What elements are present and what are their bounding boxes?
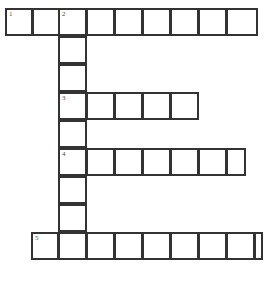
cell-r0c1[interactable] — [32, 8, 60, 36]
cell-r8c3[interactable] — [86, 232, 115, 260]
cell-r3c4[interactable] — [114, 92, 143, 120]
cell-r3c6[interactable] — [170, 92, 199, 120]
cell-r5c3[interactable] — [86, 148, 115, 176]
cell-r5c7[interactable] — [198, 148, 227, 176]
cell-r5c8[interactable] — [226, 148, 246, 176]
cell-r5c4[interactable] — [114, 148, 143, 176]
clue-number: 3 — [62, 94, 66, 102]
cell-r1c2[interactable] — [58, 36, 87, 64]
cell-r3c5[interactable] — [142, 92, 171, 120]
cell-r0c7[interactable] — [198, 8, 227, 36]
cell-r8c8[interactable] — [226, 232, 255, 260]
clue-number: 4 — [62, 150, 66, 158]
cell-r8c9[interactable] — [254, 232, 263, 260]
clue-number: 5 — [35, 234, 39, 242]
cell-r4c2[interactable] — [58, 120, 87, 148]
cell-r0c4[interactable] — [114, 8, 143, 36]
cell-r0c3[interactable] — [86, 8, 115, 36]
cell-r7c2[interactable] — [58, 204, 87, 232]
cell-r8c7[interactable] — [198, 232, 227, 260]
cell-r5c5[interactable] — [142, 148, 171, 176]
cell-r5c6[interactable] — [170, 148, 199, 176]
cell-r0c6[interactable] — [170, 8, 199, 36]
cell-r0c2[interactable]: 2 — [58, 8, 87, 36]
cell-r5c2[interactable]: 4 — [58, 148, 87, 176]
cell-r3c2[interactable]: 3 — [58, 92, 87, 120]
cell-r8c4[interactable] — [114, 232, 143, 260]
cell-r8c1[interactable]: 5 — [31, 232, 59, 260]
cell-r8c2[interactable] — [58, 232, 87, 260]
cell-r8c5[interactable] — [142, 232, 171, 260]
clue-number: 2 — [62, 10, 66, 18]
cell-r0c8[interactable] — [226, 8, 258, 36]
cell-r8c6[interactable] — [170, 232, 199, 260]
crossword-grid: 12345 — [0, 0, 267, 297]
cell-r0c5[interactable] — [142, 8, 171, 36]
cell-r6c2[interactable] — [58, 176, 87, 204]
cell-r2c2[interactable] — [58, 64, 87, 92]
clue-number: 1 — [9, 10, 13, 18]
cell-r0c0[interactable]: 1 — [5, 8, 33, 36]
cell-r3c3[interactable] — [86, 92, 115, 120]
